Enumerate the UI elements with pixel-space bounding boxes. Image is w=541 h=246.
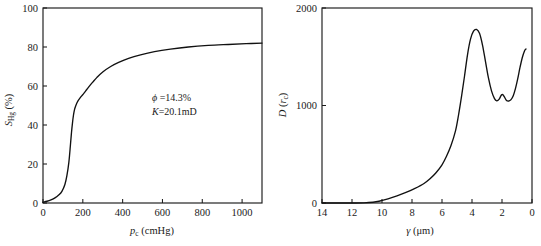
y-tick-label: 0	[312, 198, 317, 209]
x-tick-label: 4	[469, 207, 475, 218]
capillary-pressure-panel: 02004006008001000020406080100 SHg (%) pc…	[0, 0, 270, 246]
figure-container: 02004006008001000020406080100 SHg (%) pc…	[0, 0, 541, 246]
pore-size-distribution-panel: 14121086420010002000 D (rc) γ (μm)	[270, 0, 541, 246]
x-tick-label: 0	[40, 207, 45, 218]
x-tick-label: 14	[317, 207, 328, 218]
data-curve	[43, 43, 262, 202]
x-tick-label: 0	[529, 207, 534, 218]
x-tick-label: 1000	[232, 207, 253, 218]
y-tick-label: 60	[28, 81, 39, 92]
capillary-pressure-plot: 02004006008001000020406080100	[0, 0, 270, 246]
y-tick-label: 80	[28, 42, 39, 53]
x-tick-label: 8	[409, 207, 414, 218]
data-curve	[322, 29, 526, 203]
x-tick-label: 200	[75, 207, 91, 218]
x-tick-label: 12	[347, 207, 358, 218]
x-tick-label: 600	[155, 207, 171, 218]
y-tick-label: 40	[28, 120, 39, 131]
y-tick-label: 20	[28, 159, 39, 170]
y-tick-label: 100	[22, 3, 38, 14]
pore-size-distribution-plot: 14121086420010002000	[270, 0, 541, 246]
x-tick-label: 2	[499, 207, 504, 218]
x-tick-label: 10	[377, 207, 388, 218]
y-tick-label: 0	[33, 198, 38, 209]
y-tick-label: 2000	[296, 3, 317, 14]
x-tick-label: 400	[115, 207, 131, 218]
x-tick-label: 6	[439, 207, 444, 218]
y-tick-label: 1000	[296, 100, 317, 111]
x-tick-label: 800	[194, 207, 210, 218]
